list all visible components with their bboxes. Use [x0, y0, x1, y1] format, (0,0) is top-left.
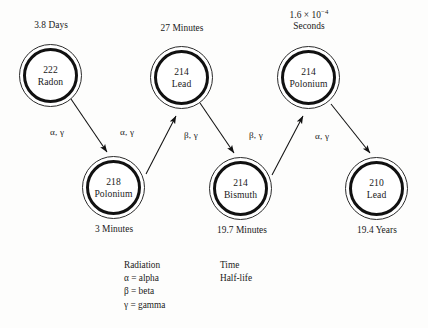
halflife-radon-222: 3.8 Days [12, 20, 90, 31]
node-element-name: Radon [38, 76, 64, 87]
legend-radiation-gamma: γ = gamma [124, 299, 165, 312]
legend-time: Time Half-life [220, 259, 252, 285]
arrow-label-pb214-to-bi214: β, γ [184, 130, 198, 140]
node-label: 214 Lead [151, 47, 212, 108]
node-radon-222[interactable]: 222 Radon [19, 44, 82, 107]
arrow-label-po214-to-pb210: α, γ [315, 131, 329, 141]
halflife-polonium-214-exponent: −4 [321, 8, 328, 15]
halflife-lead-214: 27 Minutes [142, 23, 222, 34]
node-lead-210[interactable]: 210 Lead [345, 157, 408, 220]
halflife-polonium-214-unit: Seconds [266, 21, 352, 32]
halflife-polonium-214-value: 1.6 × 10−4 [266, 10, 352, 21]
node-mass-number: 214 [233, 177, 248, 188]
node-label: 214 Bismuth [210, 158, 271, 219]
halflife-lead-210: 19.4 Years [337, 225, 417, 236]
halflife-polonium-218: 3 Minutes [75, 224, 153, 235]
node-label: 218 Polonium [83, 157, 144, 218]
legend-time-halflife: Half-life [220, 272, 252, 285]
halflife-polonium-214-mantissa: 1.6 × 10 [290, 10, 321, 20]
node-element-name: Lead [367, 189, 387, 200]
legend-radiation-alpha: α = alpha [124, 272, 165, 285]
node-element-name: Lead [172, 78, 192, 89]
node-label: 214 Polonium [278, 47, 339, 108]
arrow-label-bi214-to-po214: β, γ [249, 130, 263, 140]
halflife-polonium-214: 1.6 × 10−4 Seconds [266, 10, 352, 33]
node-mass-number: 210 [369, 177, 384, 188]
arrow-bi214-to-po214 [272, 116, 303, 175]
arrow-po218-to-pb214 [146, 116, 176, 174]
node-mass-number: 222 [43, 64, 58, 75]
node-lead-214[interactable]: 214 Lead [150, 46, 213, 109]
arrow-label-po218-to-pb214: α, γ [120, 127, 134, 137]
legend-radiation-beta: β = beta [124, 285, 165, 298]
node-element-name: Bismuth [224, 189, 257, 200]
node-label: 210 Lead [346, 158, 407, 219]
legend-time-heading: Time [220, 259, 252, 272]
legend-radiation-heading: Radiation [124, 259, 165, 272]
arrow-po214-to-pb210 [331, 104, 370, 153]
node-label: 222 Radon [20, 45, 81, 106]
node-bismuth-214[interactable]: 214 Bismuth [209, 157, 272, 220]
node-polonium-214[interactable]: 214 Polonium [277, 46, 340, 109]
arrow-rn222-to-po218 [71, 99, 107, 152]
node-element-name: Polonium [94, 188, 132, 199]
node-polonium-218[interactable]: 218 Polonium [82, 156, 145, 219]
node-mass-number: 214 [301, 66, 316, 77]
node-mass-number: 214 [174, 66, 189, 77]
arrow-label-rn222-to-po218: α, γ [50, 127, 64, 137]
halflife-bismuth-214: 19.7 Minutes [200, 225, 284, 236]
decay-chain-diagram: 3.8 Days 3 Minutes 27 Minutes 19.7 Minut… [0, 0, 428, 328]
arrow-pb214-to-bi214 [200, 103, 234, 153]
node-element-name: Polonium [289, 78, 327, 89]
legend-radiation: Radiation α = alpha β = beta γ = gamma [124, 259, 165, 312]
node-mass-number: 218 [106, 176, 121, 187]
